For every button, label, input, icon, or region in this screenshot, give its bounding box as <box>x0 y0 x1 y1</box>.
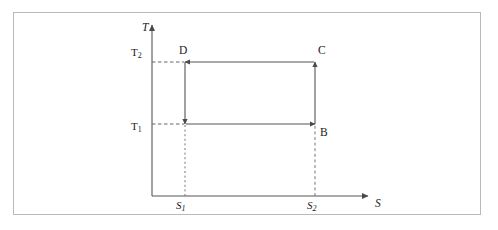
ts-diagram-plot <box>0 0 498 230</box>
tick-label-s2-sub: 2 <box>313 204 317 213</box>
tick-label-t2-base: T <box>131 46 138 58</box>
t-axis-label: T <box>142 22 148 34</box>
tick-label-s2: S2 <box>307 200 317 211</box>
tick-label-t1-base: T <box>131 120 138 132</box>
vertex-label-d: D <box>179 45 187 57</box>
vertex-label-c: C <box>318 45 326 57</box>
tick-label-s1-sub: 1 <box>182 204 186 213</box>
tick-label-t2: T2 <box>131 47 142 58</box>
tick-label-t1: T1 <box>131 121 142 132</box>
tick-label-s1: S1 <box>176 200 186 211</box>
vertex-label-b: B <box>320 127 328 139</box>
s-axis-label: S <box>375 198 381 210</box>
tick-label-s2-base: S <box>307 199 313 211</box>
tick-label-t1-sub: 1 <box>138 125 142 134</box>
tick-label-t2-sub: 2 <box>138 51 142 60</box>
figure-canvas: T S T2 T1 S1 S2 D C B <box>0 0 498 230</box>
tick-label-s1-base: S <box>176 199 182 211</box>
